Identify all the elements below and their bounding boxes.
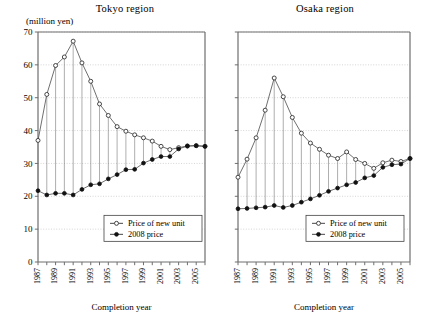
data-point-2008-price (236, 207, 240, 211)
data-point-price-of-new-unit (115, 125, 119, 129)
data-point-2008-price (290, 204, 294, 208)
y-tick-label: 60 (24, 60, 34, 70)
data-point-price-of-new-unit (141, 136, 145, 140)
data-point-price-of-new-unit (363, 161, 367, 165)
data-point-price-of-new-unit (45, 92, 49, 96)
x-tick-label: 1989 (50, 268, 59, 284)
data-point-price-of-new-unit (381, 161, 385, 165)
data-point-price-of-new-unit (354, 157, 358, 161)
y-tick-label: 10 (24, 224, 34, 234)
data-point-2008-price (203, 144, 207, 148)
data-point-price-of-new-unit (272, 76, 276, 80)
data-point-2008-price (399, 162, 403, 166)
data-point-price-of-new-unit (80, 61, 84, 65)
x-tick-label: 2005 (396, 268, 405, 284)
data-point-price-of-new-unit (89, 79, 93, 83)
data-point-2008-price (115, 173, 119, 177)
data-point-2008-price (381, 165, 385, 169)
data-point-2008-price (272, 204, 276, 208)
data-point-2008-price (254, 206, 258, 210)
data-point-price-of-new-unit (236, 175, 240, 179)
data-point-2008-price (106, 177, 110, 181)
legend-item-2008-price: 2008 price (330, 230, 366, 239)
data-point-price-of-new-unit (317, 147, 321, 151)
data-point-price-of-new-unit (54, 64, 58, 68)
plot-area-osaka: 1987198919911993199519971999200120032005… (214, 0, 428, 328)
data-point-price-of-new-unit (254, 136, 258, 140)
data-point-price-of-new-unit (336, 157, 340, 161)
x-tick-label: 1995 (305, 268, 314, 284)
x-tick-label: 1993 (86, 268, 95, 284)
data-point-2008-price (124, 168, 128, 172)
data-point-price-of-new-unit (372, 166, 376, 170)
data-point-2008-price (168, 155, 172, 159)
legend-swatch-marker (115, 221, 119, 225)
data-point-2008-price (309, 197, 313, 201)
legend-swatch-marker (115, 232, 119, 236)
plot-area-tokyo: 0102030405060701987198919911993199519971… (0, 0, 214, 328)
data-point-price-of-new-unit (345, 150, 349, 154)
data-point-2008-price (363, 176, 367, 180)
data-point-2008-price (299, 200, 303, 204)
data-point-2008-price (45, 193, 49, 197)
data-point-price-of-new-unit (124, 129, 128, 133)
figure-two-panel-line-charts: Tokyo region (million yen) 0102030405060… (0, 0, 428, 328)
data-point-price-of-new-unit (327, 153, 331, 157)
data-point-2008-price (281, 206, 285, 210)
data-point-price-of-new-unit (168, 148, 172, 152)
data-point-price-of-new-unit (133, 133, 137, 137)
x-tick-label: 1997 (323, 268, 332, 284)
panel-osaka: Osaka region 198719891991199319951997199… (214, 0, 428, 328)
data-point-2008-price (150, 158, 154, 162)
data-point-price-of-new-unit (36, 138, 40, 142)
data-point-price-of-new-unit (150, 139, 154, 143)
data-point-2008-price (186, 144, 190, 148)
legend-item-2008-price: 2008 price (128, 230, 164, 239)
legend-swatch-marker (317, 232, 321, 236)
x-tick-label: 1991 (269, 268, 278, 284)
x-tick-label: 2001 (156, 268, 165, 284)
x-tick-label: 1987 (33, 268, 42, 284)
y-tick-label: 40 (24, 126, 34, 136)
y-tick-label: 70 (24, 27, 34, 37)
data-point-2008-price (263, 205, 267, 209)
x-tick-label: 1991 (68, 268, 77, 284)
legend-item-price-of-new-unit: Price of new unit (128, 219, 186, 228)
x-tick-label: 1999 (138, 268, 147, 284)
data-point-price-of-new-unit (299, 131, 303, 135)
data-point-2008-price (54, 191, 58, 195)
data-point-2008-price (318, 193, 322, 197)
legend-swatch-marker (317, 221, 321, 225)
data-point-2008-price (98, 182, 102, 186)
x-tick-label: 1999 (341, 268, 350, 284)
y-tick-label: 50 (24, 93, 34, 103)
data-point-2008-price (159, 155, 163, 159)
data-point-price-of-new-unit (62, 55, 66, 59)
data-point-2008-price (89, 183, 93, 187)
y-tick-label: 30 (24, 159, 34, 169)
x-tick-label: 1989 (251, 268, 260, 284)
x-tick-label: 1987 (233, 268, 242, 284)
x-tick-label: 2005 (191, 268, 200, 284)
data-point-price-of-new-unit (290, 115, 294, 119)
x-tick-label: 2001 (360, 268, 369, 284)
x-axis-title: Completion year (91, 302, 151, 312)
data-point-2008-price (354, 181, 358, 185)
data-point-2008-price (372, 174, 376, 178)
panel-tokyo: Tokyo region (million yen) 0102030405060… (0, 0, 214, 328)
y-tick-label: 0 (28, 257, 33, 267)
data-point-2008-price (336, 186, 340, 190)
data-point-2008-price (142, 161, 146, 165)
data-point-price-of-new-unit (281, 95, 285, 99)
data-point-price-of-new-unit (245, 157, 249, 161)
data-point-2008-price (345, 183, 349, 187)
y-tick-label: 20 (24, 191, 34, 201)
data-point-price-of-new-unit (308, 141, 312, 145)
data-point-2008-price (390, 163, 394, 167)
legend-item-price-of-new-unit: Price of new unit (330, 219, 388, 228)
x-tick-label: 1995 (103, 268, 112, 284)
x-tick-label: 1997 (121, 268, 130, 284)
data-point-2008-price (194, 144, 198, 148)
series-line-2008-price (38, 146, 205, 195)
data-point-2008-price (133, 167, 137, 171)
